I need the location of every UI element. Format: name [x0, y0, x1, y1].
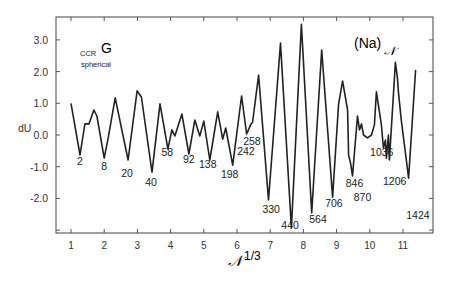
x-tick-label: 2: [101, 240, 107, 251]
y-tick-label: -1.0: [30, 161, 48, 173]
magic-number-label: 330: [262, 203, 280, 215]
magic-number-label: 846: [346, 177, 364, 189]
x-tick-label: 10: [364, 240, 376, 251]
magic-number-label: 58: [161, 146, 173, 158]
x-tick-label: 4: [168, 240, 174, 251]
magic-number-label: 564: [309, 213, 327, 225]
magic-number-label: 198: [221, 168, 239, 180]
system-main: (Na): [354, 35, 381, 51]
x-tick-label: 3: [135, 240, 141, 251]
model-annotation: CCR G spherical: [80, 40, 112, 69]
model-subscript: CCR: [80, 49, 97, 58]
y-tick-label: 2.0: [33, 66, 48, 78]
magic-number-label: 92: [183, 153, 195, 165]
magic-number-label: 8: [101, 160, 107, 172]
y-tick-label: 1.0: [33, 97, 48, 109]
magic-number-label: 40: [145, 176, 157, 188]
magic-number-label: 258: [243, 135, 261, 147]
x-tick-label: 1: [68, 240, 74, 251]
x-axis-title-sup: 1/3: [244, 249, 261, 263]
magic-number-label: 440: [281, 219, 299, 231]
magic-number-label: 870: [354, 191, 372, 203]
system-subscript: 𝒩: [384, 44, 399, 58]
x-tick-label: 5: [201, 240, 207, 251]
magic-number-label: 138: [199, 158, 217, 170]
magic-number-label: 1036: [370, 146, 394, 158]
magic-number-label: 706: [325, 197, 343, 209]
model-line2: spherical: [81, 60, 111, 69]
x-tick-label: 9: [334, 240, 340, 251]
y-tick-label: -2.0: [30, 192, 48, 204]
y-tick-label: 3.0: [33, 34, 48, 46]
x-tick-label: 11: [398, 240, 409, 251]
y-axis-title: dU: [18, 122, 31, 134]
x-tick-label: 8: [301, 240, 307, 251]
magic-number-label: 2: [77, 155, 83, 167]
magic-number-label: 20: [121, 167, 133, 179]
magic-number-label: 1206: [383, 175, 407, 187]
model-main: G: [101, 40, 112, 56]
y-tick-label: 0.0: [33, 129, 48, 141]
chart-canvas: 12345678910113.02.01.00.0-1.0-2.0 282040…: [0, 0, 450, 282]
system-annotation: (Na) 𝒩: [354, 35, 399, 58]
x-tick-label: 7: [267, 240, 273, 251]
magic-number-label: 1424: [406, 209, 430, 221]
x-tick-label: 6: [234, 240, 240, 251]
x-axis-title: 𝒩 1/3: [228, 249, 261, 270]
